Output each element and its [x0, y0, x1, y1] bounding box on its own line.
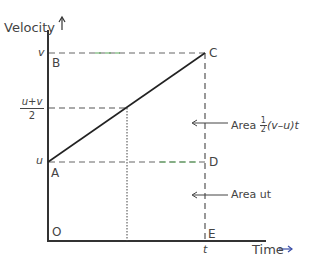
point-d: D — [209, 156, 218, 168]
area-rect-label: Area ut — [231, 189, 271, 200]
point-o: O — [52, 226, 61, 238]
tick-v: v — [38, 47, 45, 58]
area-triangle-label: Area 12(v–u)t — [231, 117, 299, 134]
velocity-time-graph — [0, 0, 309, 269]
y-axis-label: Velocity — [4, 21, 55, 34]
point-a: A — [51, 167, 59, 179]
point-c: C — [209, 47, 217, 59]
half-fraction: 12 — [260, 117, 267, 134]
tick-t: t — [203, 244, 207, 255]
tick-mid-denominator: 2 — [20, 109, 44, 121]
point-b: B — [52, 57, 60, 69]
tick-mid-numerator: u+v — [20, 97, 44, 109]
tick-u: u — [36, 155, 43, 166]
tick-mid: u+v 2 — [20, 97, 44, 121]
point-e: E — [208, 228, 216, 240]
x-axis-label: Time — [252, 243, 284, 256]
